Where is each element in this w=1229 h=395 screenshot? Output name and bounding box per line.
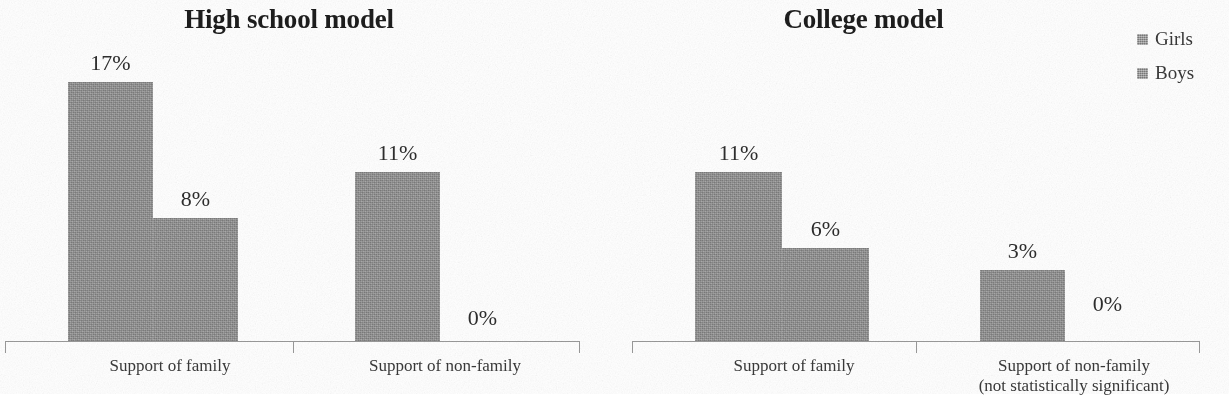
bar-high-school-family-boys[interactable] <box>153 218 238 342</box>
category-label-text: Support of non-family <box>998 356 1150 375</box>
bar-college-family-girls[interactable] <box>695 172 782 342</box>
bar-high-school-nonfamily-girls[interactable] <box>355 172 440 342</box>
bar-label-college-family-girls: 11% <box>695 142 782 164</box>
category-label-subtext: (not statistically significant) <box>944 376 1204 395</box>
category-label-text: Support of non-family <box>369 356 521 375</box>
plot-area-college: 11% 6% 3% 0% <box>614 0 1189 342</box>
axis-tick-college <box>916 342 917 353</box>
x-axis-college <box>632 341 1200 353</box>
bar-label-high-school-family-girls: 17% <box>68 52 153 74</box>
chart-panel-college: College model 11% 6% 3% 0% Support of fa… <box>614 0 1189 394</box>
category-label-college-nonfamily: Support of non-family (not statistically… <box>944 356 1204 395</box>
bar-label-college-nonfamily-girls: 3% <box>980 240 1065 262</box>
x-axis-high-school <box>5 341 580 353</box>
legend-item-boys[interactable]: Boys <box>1137 56 1229 90</box>
category-label-text: Support of family <box>734 356 855 375</box>
bar-label-high-school-nonfamily-boys: 0% <box>440 307 525 329</box>
chart-panel-high-school: High school model 17% 8% 11% 0% Support … <box>0 0 614 394</box>
category-label-high-school-family: Support of family <box>55 356 285 376</box>
legend-swatch-girls-icon <box>1137 34 1148 45</box>
legend-label-girls: Girls <box>1155 28 1193 50</box>
bar-label-high-school-nonfamily-girls: 11% <box>355 142 440 164</box>
bar-college-nonfamily-girls[interactable] <box>980 270 1065 342</box>
bar-label-college-nonfamily-boys: 0% <box>1065 293 1150 315</box>
category-label-high-school-nonfamily: Support of non-family <box>320 356 570 376</box>
chart-legend: Girls Boys <box>1137 22 1229 90</box>
bar-college-family-boys[interactable] <box>782 248 869 342</box>
legend-item-girls[interactable]: Girls <box>1137 22 1229 56</box>
category-label-college-family: Support of family <box>679 356 909 376</box>
legend-label-boys: Boys <box>1155 62 1194 84</box>
legend-swatch-boys-icon <box>1137 68 1148 79</box>
bar-label-high-school-family-boys: 8% <box>153 188 238 210</box>
bar-label-college-family-boys: 6% <box>782 218 869 240</box>
axis-tick-high-school <box>293 342 294 353</box>
bar-high-school-family-girls[interactable] <box>68 82 153 342</box>
category-label-text: Support of family <box>110 356 231 375</box>
plot-area-high-school: 17% 8% 11% 0% <box>0 0 614 342</box>
